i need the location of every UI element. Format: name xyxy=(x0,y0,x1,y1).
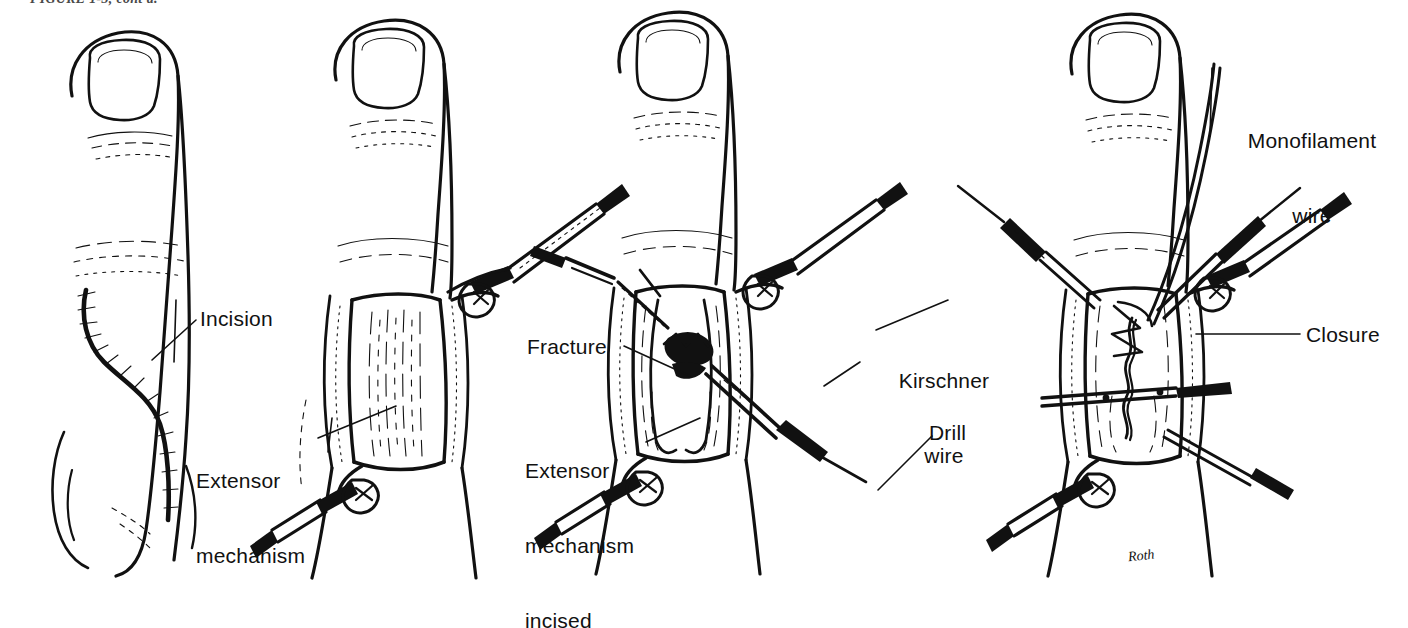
label-extensor-mechanism-line2: mechanism xyxy=(196,543,305,568)
label-monofilament-wire: Monofilament wire xyxy=(1222,78,1402,278)
panel-a-artwork xyxy=(52,32,195,576)
label-kirschner-wire-line1: Kirschner xyxy=(884,368,1004,393)
leader-kirschner-wire-left xyxy=(824,362,860,386)
label-extensor-incised-line3: incised xyxy=(525,608,634,628)
label-monofilament-wire-line1: Monofilament xyxy=(1222,128,1402,153)
label-monofilament-wire-line2: wire xyxy=(1222,203,1402,228)
label-incision: Incision xyxy=(200,306,273,331)
leader-incision-vertical xyxy=(174,300,176,362)
monofilament-wire-loop xyxy=(1112,64,1220,356)
skin-hook-d-lower xyxy=(986,460,1114,552)
label-kirschner-wire: Kirschner wire xyxy=(884,318,1004,518)
label-kirschner-wire-line2: wire xyxy=(884,443,1004,468)
label-extensor-mechanism-incised: Extensor mechanism incised xyxy=(525,408,634,628)
label-extensor-mechanism: Extensor mechanism xyxy=(196,418,305,618)
forceps-instrument xyxy=(958,186,1100,308)
skin-hook-c-upper xyxy=(736,182,908,309)
kirschner-wire-instrument xyxy=(530,246,668,328)
label-drill: Drill xyxy=(929,420,966,445)
label-extensor-incised-line2: mechanism xyxy=(525,533,634,558)
label-extensor-mechanism-line1: Extensor xyxy=(196,468,305,493)
label-fracture: Fracture xyxy=(527,334,607,359)
label-extensor-incised-line1: Extensor xyxy=(525,458,634,483)
artist-signature: Roth xyxy=(1127,547,1155,566)
figure-plate: FIGURE 1-3, cont'd. xyxy=(0,0,1408,628)
label-closure: Closure xyxy=(1306,322,1380,347)
